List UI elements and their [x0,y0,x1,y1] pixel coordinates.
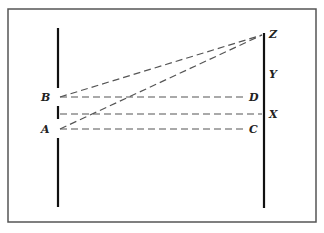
label-C: C [249,123,258,136]
label-X: X [268,108,278,121]
label-Y: Y [269,68,278,81]
diagram-canvas: B A Z Y D X C [0,0,324,233]
dashed-sight-lines [60,35,262,129]
dashed-line-B-to-Z [60,35,262,97]
label-B: B [40,91,50,104]
label-D: D [248,91,259,104]
label-Z: Z [268,28,278,41]
dashed-line-A-to-Z [60,35,262,129]
label-A: A [40,123,50,136]
